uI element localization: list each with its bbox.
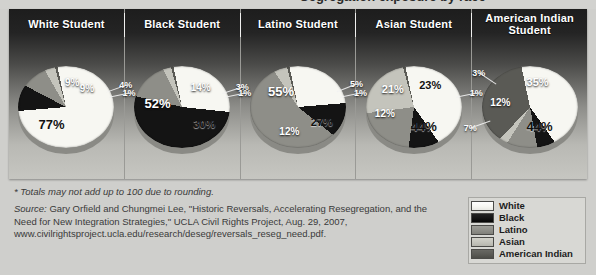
pie-slice-label: 35% [527,76,549,88]
pie-column-white-student: White Student77%9%9%4%1% [9,9,125,179]
pie-slice-label: 21% [382,83,404,95]
legend-swatch-icon [472,214,493,222]
pie-slice-label: 12% [375,107,395,118]
pie-chart-panel: White Student77%9%9%4%1%Black Student30%… [9,9,587,179]
pie-slice-label: 12% [279,125,299,136]
pie-area: 77%9%9%4%1% [9,40,124,179]
pie-slice-label: 9% [65,76,79,87]
legend-swatch-icon [472,238,493,246]
pie-slice-label: 30% [193,118,215,130]
pie-area: 30%52%14%3%1% [125,40,240,179]
legend-label: White [499,201,525,211]
pie-column-title: Black Student [125,9,240,40]
pie-chart: 27%12%55%5%1% [250,62,346,158]
pie-column-title: American Indian Student [472,9,587,40]
pie-column-title: Latino Student [241,9,356,40]
pie-slice-label: 44% [411,119,437,134]
pie-slice-label: 9% [80,83,94,94]
pie-chart: 44%12%21%23%1% [366,62,462,158]
legend-item-asian: Asian [472,236,582,248]
pie-area: 44%7%12%3%35% [472,40,587,179]
cut-off-title-strip: Segregation exposure by race [0,0,596,9]
legend-swatch-icon [472,202,493,210]
legend-swatch-icon [472,226,493,234]
legend-swatch-icon [472,250,493,258]
legend-item-black: Black [472,212,582,224]
pie-slice-label: 77% [38,116,64,131]
pie-area: 27%12%55%5%1% [241,40,356,179]
pie-chart: 30%52%14%3%1% [134,62,230,158]
legend-item-white: White [472,200,582,212]
page-title-ghost: Segregation exposure by race [300,0,486,4]
pie-column-latino-student: Latino Student27%12%55%5%1% [241,9,357,179]
legend-label: American Indian [499,249,573,259]
legend-label: Asian [499,237,525,247]
pie-slice-label: 23% [419,79,441,91]
pie-columns: White Student77%9%9%4%1%Black Student30%… [9,9,587,179]
pie-column-american-indian-student: American Indian Student44%7%12%3%35% [472,9,587,179]
source-citation: Source: Gary Orfield and Chungmei Lee, "… [14,203,444,241]
pie-slice-label: 44% [527,119,553,134]
rounding-footnote: * Totals may not add up to 100 due to ro… [14,186,444,197]
pie-chart: 77%9%9%4%1% [18,62,114,158]
notes-block: * Totals may not add up to 100 due to ro… [14,186,444,241]
pie-chart: 44%7%12%3%35% [482,62,578,158]
pie-area: 44%12%21%23%1% [356,40,471,179]
pie-slice-label: 27% [311,116,333,128]
pie-slice-label: 14% [191,81,211,92]
pie-slice-label: 55% [268,83,294,98]
source-label: Source: [14,203,47,214]
legend-label: Latino [499,225,528,235]
pie-column-black-student: Black Student30%52%14%3%1% [125,9,241,179]
legend-label: Black [499,213,524,223]
pie-slice-label: 52% [145,95,171,110]
pie-column-asian-student: Asian Student44%12%21%23%1% [356,9,472,179]
pie-column-title: Asian Student [356,9,471,40]
legend-item-american-indian: American Indian [472,248,582,260]
pie-slice-label: 12% [490,96,510,107]
pie-column-title: White Student [9,9,124,40]
chart-legend: WhiteBlackLatinoAsianAmerican Indian [469,198,585,263]
legend-item-latino: Latino [472,224,582,236]
source-text: Gary Orfield and Chungmei Lee, "Historic… [14,203,427,239]
